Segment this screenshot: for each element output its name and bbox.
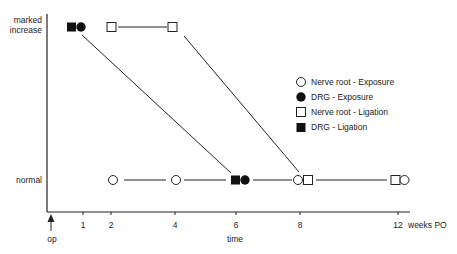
legend-filled-square-icon [297, 123, 306, 132]
marker-nerve-exposure-wk4 [172, 176, 181, 185]
x-axis-title: time [227, 234, 243, 244]
legend-open-square-icon [297, 108, 306, 117]
y-label-normal: normal [16, 175, 42, 185]
marker-drg-exposure-wk6 [240, 175, 249, 184]
marker-nerve-ligation-wk8 [304, 176, 313, 185]
op-arrow-icon [48, 214, 55, 231]
chart: marked increase normal 1 2 4 6 8 12 week… [0, 0, 457, 254]
x-tick-12: 12 [393, 220, 403, 230]
x-tick-6: 6 [234, 220, 239, 230]
series-lines [82, 27, 387, 180]
legend-label-drg-exposure: DRG - Exposure [311, 92, 374, 102]
marker-drg-exposure-wk1 [76, 22, 85, 31]
legend-open-circle-icon [297, 78, 306, 87]
op-label: op [47, 234, 57, 244]
y-label-marked: marked [14, 15, 43, 25]
marker-nerve-ligation-wk2 [107, 23, 116, 32]
x-tick-2: 2 [109, 220, 114, 230]
marker-drg-ligation-wk6 [231, 176, 240, 185]
y-label-increase: increase [10, 25, 42, 35]
marker-nerve-exposure-wk12 [400, 176, 409, 185]
marker-nerve-exposure-wk2 [109, 176, 118, 185]
marker-nerve-exposure-wk8 [294, 176, 303, 185]
legend-filled-circle-icon [296, 92, 305, 101]
legend-label-drg-ligation: DRG - Ligation [311, 122, 367, 132]
x-tick-1: 1 [81, 220, 86, 230]
marker-nerve-ligation-wk12 [391, 176, 400, 185]
legend-label-nerve-exposure: Nerve root - Exposure [311, 77, 394, 87]
x-tick-4: 4 [173, 220, 178, 230]
marker-drg-ligation-wk1 [67, 23, 76, 32]
legend: Nerve root - Exposure DRG - Exposure Ner… [296, 77, 394, 132]
x-unit-label: weeks PO [407, 220, 447, 230]
legend-label-nerve-ligation: Nerve root - Ligation [311, 107, 388, 117]
marker-nerve-ligation-wk4 [168, 23, 177, 32]
x-tick-8: 8 [298, 220, 303, 230]
